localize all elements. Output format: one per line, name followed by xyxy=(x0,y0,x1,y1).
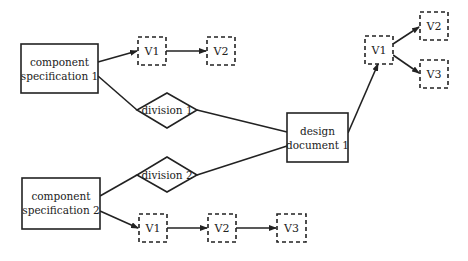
spec2-v1-label: V1 xyxy=(145,222,161,235)
design-v2-label: V2 xyxy=(426,20,442,33)
edge-spec1-to-division1 xyxy=(98,76,137,110)
spec1-label-line2: specification 1 xyxy=(21,70,98,82)
edge-spec2-to-division2 xyxy=(100,175,137,196)
division1-label: division 1 xyxy=(141,104,192,116)
spec1-v1-label: V1 xyxy=(144,45,160,58)
spec2-v2-label: V2 xyxy=(214,222,230,235)
edge-division2-to-design xyxy=(197,146,287,175)
node-division-2: division 2 xyxy=(137,157,197,192)
spec1-v2-label: V2 xyxy=(213,45,229,58)
edge-spec1-to-v1 xyxy=(98,51,137,62)
edge-division1-to-design xyxy=(197,110,287,132)
edge-design-to-v1 xyxy=(348,64,378,133)
node-component-specification-1: component specification 1 xyxy=(21,44,98,93)
edge-design-v1-to-v3 xyxy=(393,55,419,73)
spec2-label-line2: specification 2 xyxy=(22,204,99,216)
spec2-v3-label: V3 xyxy=(283,222,299,235)
design-v1-label: V1 xyxy=(371,44,387,57)
design-label-line1: design xyxy=(300,125,335,137)
design-v3-label: V3 xyxy=(426,68,442,81)
diagram-canvas: component specification 1 component spec… xyxy=(0,0,468,261)
node-design-document-1: design document 1 xyxy=(286,113,349,162)
division2-label: division 2 xyxy=(141,169,192,181)
node-division-1: division 1 xyxy=(137,93,197,128)
edge-design-v1-to-v2 xyxy=(393,27,419,44)
edge-spec2-to-v1 xyxy=(100,211,138,228)
node-component-specification-2: component specification 2 xyxy=(22,178,100,229)
design-label-line2: document 1 xyxy=(286,139,349,151)
spec2-label-line1: component xyxy=(31,190,91,202)
spec1-label-line1: component xyxy=(30,56,90,68)
